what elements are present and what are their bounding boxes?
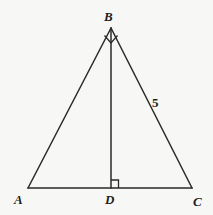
right-angle-marker-d: [111, 180, 119, 188]
vertex-label-a: A: [14, 193, 23, 206]
segment-ab: [28, 28, 111, 188]
vertex-label-d: D: [105, 193, 114, 206]
vertex-label-b: B: [104, 10, 113, 23]
vertex-label-c: C: [193, 195, 202, 208]
side-length-label-bc: 5: [152, 96, 159, 109]
geometry-figure: A B C D 5: [0, 0, 213, 215]
geometry-canvas: [0, 0, 213, 215]
